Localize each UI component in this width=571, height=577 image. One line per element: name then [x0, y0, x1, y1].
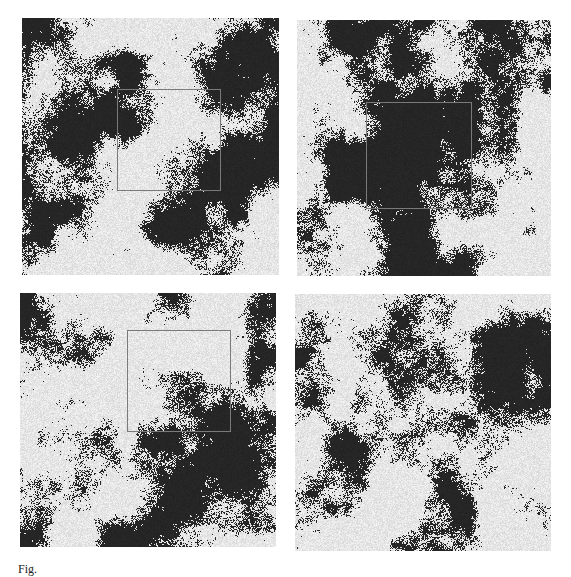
panel-bottom-left: [20, 293, 276, 547]
cluster-image: [295, 294, 551, 551]
panel-top-right: [297, 20, 551, 276]
cluster-image: [20, 293, 276, 547]
cluster-image: [297, 20, 551, 276]
panel-bottom-right: [295, 294, 551, 551]
panel-top-left: [22, 18, 279, 275]
cluster-image: [22, 18, 279, 275]
figure-caption: Fig.: [18, 562, 37, 577]
